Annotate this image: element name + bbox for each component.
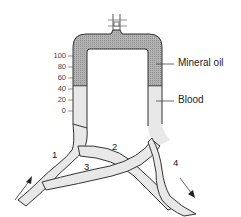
vessel-number-3: 3: [84, 162, 89, 172]
vessel-number-2: 2: [112, 142, 117, 152]
vessel-network: [18, 124, 196, 216]
blood-label: Blood: [178, 95, 204, 105]
scale-ticks: [68, 56, 73, 111]
scale-tick-20: 20: [44, 96, 66, 104]
scale-tick-40: 40: [44, 85, 66, 93]
vessel-number-1: 1: [52, 150, 57, 160]
outflow-arrow: [180, 178, 195, 198]
diagram-canvas: [0, 0, 241, 217]
scale-tick-100: 100: [44, 52, 66, 60]
vessel-number-4: 4: [173, 158, 178, 168]
blood-right-limb: [148, 86, 170, 145]
mineral-oil-label: Mineral oil: [178, 58, 224, 68]
scale-tick-60: 60: [44, 74, 66, 82]
scale-tick-80: 80: [44, 63, 66, 71]
oil-column: [73, 30, 162, 86]
scale-tick-0: 0: [44, 107, 66, 115]
